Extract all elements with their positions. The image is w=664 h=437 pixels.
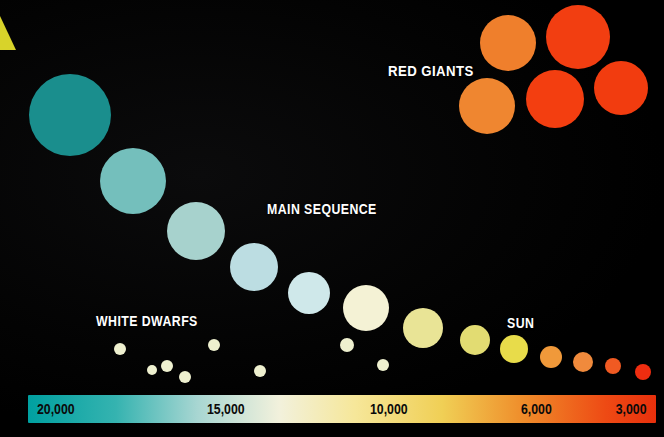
white-dwarf-8	[377, 359, 389, 371]
red-giant-1	[480, 15, 536, 71]
temperature-scale-bar	[28, 395, 656, 423]
main-sequence-star-6	[343, 285, 389, 331]
main-sequence-star-3	[167, 202, 225, 260]
white-dwarf-4	[179, 371, 191, 383]
red-giant-4	[526, 70, 584, 128]
red-giant-2	[546, 5, 610, 69]
main-sequence-star-13	[635, 364, 651, 380]
red-giant-3	[459, 78, 515, 134]
main-sequence-star-10	[540, 346, 562, 368]
tick-3000: 3,000	[616, 400, 647, 417]
white-dwarf-6	[254, 365, 266, 377]
tick-20000: 20,000	[37, 400, 75, 417]
main-sequence-star-12	[605, 358, 621, 374]
main-sequence-star-4	[230, 243, 278, 291]
white-dwarf-3	[147, 365, 157, 375]
main-sequence-star-7	[403, 308, 443, 348]
white-dwarf-1	[114, 343, 126, 355]
main-sequence-star-1	[29, 74, 111, 156]
label-white-dwarfs: WHITE DWARFS	[96, 313, 198, 329]
tick-15000: 15,000	[207, 400, 245, 417]
hr-diagram-figure: RED GIANTSMAIN SEQUENCEWHITE DWARFSSUN 2…	[0, 0, 664, 437]
white-dwarf-2	[161, 360, 173, 372]
label-red-giants: RED GIANTS	[388, 62, 474, 79]
yellow-corner-wedge	[0, 16, 16, 50]
tick-10000: 10,000	[370, 400, 408, 417]
tick-6000: 6,000	[521, 400, 552, 417]
main-sequence-star-8	[460, 325, 490, 355]
main-sequence-star-11	[573, 352, 593, 372]
red-giant-5	[594, 61, 648, 115]
white-dwarf-5	[208, 339, 220, 351]
main-sequence-star-5	[288, 272, 330, 314]
main-sequence-star-2	[100, 148, 166, 214]
main-sequence-star-9-sun	[500, 335, 528, 363]
label-main-sequence: MAIN SEQUENCE	[267, 201, 377, 217]
label-sun: SUN	[507, 315, 534, 331]
white-dwarf-7	[340, 338, 354, 352]
